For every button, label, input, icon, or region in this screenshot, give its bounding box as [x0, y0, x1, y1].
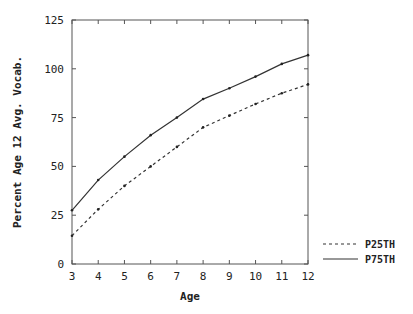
- series-line-p75th: [72, 55, 308, 210]
- y-tick-label: 0: [57, 258, 64, 271]
- x-tick-label: 8: [200, 270, 207, 283]
- plot-frame: [72, 20, 308, 264]
- data-point: [228, 114, 231, 117]
- data-point: [123, 155, 126, 158]
- y-tick-label: 75: [51, 112, 64, 125]
- legend: P25THP75TH: [323, 239, 395, 265]
- data-point: [280, 63, 283, 66]
- data-point: [307, 54, 310, 57]
- data-point: [202, 98, 205, 101]
- x-axis-title: Age: [180, 290, 200, 303]
- data-point: [280, 92, 283, 95]
- data-point: [176, 146, 179, 149]
- y-axis-ticks: 0255075100125: [44, 14, 308, 271]
- data-point: [149, 165, 152, 168]
- data-point: [202, 126, 205, 129]
- data-point: [71, 234, 74, 237]
- x-tick-label: 3: [69, 270, 76, 283]
- y-tick-label: 125: [44, 14, 64, 27]
- y-tick-label: 100: [44, 63, 64, 76]
- data-point: [97, 179, 100, 182]
- x-tick-label: 4: [95, 270, 102, 283]
- legend-label: P25TH: [365, 239, 395, 250]
- data-point: [71, 209, 74, 212]
- series-line-p25th: [72, 84, 308, 235]
- data-point: [97, 208, 100, 211]
- data-point: [149, 134, 152, 137]
- data-point: [254, 75, 257, 78]
- data-point: [254, 103, 257, 106]
- x-tick-label: 10: [249, 270, 262, 283]
- y-axis-title: Percent Age 12 Avg. Vocab.: [11, 56, 24, 228]
- data-point: [176, 116, 179, 119]
- data-series: [71, 54, 310, 237]
- data-point: [228, 87, 231, 90]
- x-tick-label: 5: [121, 270, 128, 283]
- x-tick-label: 11: [275, 270, 288, 283]
- x-tick-label: 7: [174, 270, 181, 283]
- legend-label: P75TH: [365, 254, 395, 265]
- x-tick-label: 6: [147, 270, 154, 283]
- data-point: [307, 83, 310, 86]
- data-point: [123, 185, 126, 188]
- y-tick-label: 50: [51, 160, 64, 173]
- x-tick-label: 12: [301, 270, 314, 283]
- line-chart: 0255075100125 3456789101112 Age Percent …: [0, 0, 413, 314]
- x-axis-ticks: 3456789101112: [69, 20, 315, 283]
- y-tick-label: 25: [51, 209, 64, 222]
- x-tick-label: 9: [226, 270, 233, 283]
